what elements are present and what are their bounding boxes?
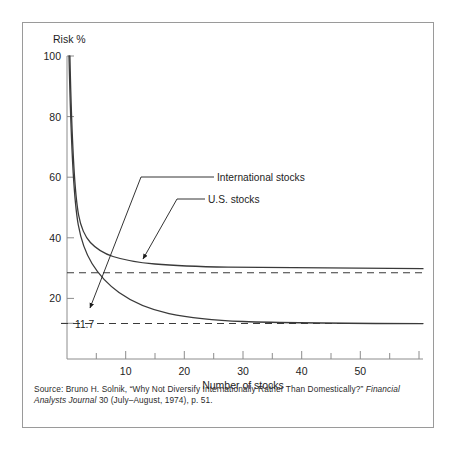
annotation-us-stocks: U.S. stocks (143, 194, 260, 259)
figure-frame: 100 80 60 40 20 Risk % (22, 22, 434, 428)
x-axis-ticks (96, 351, 419, 359)
x-tick-label-40: 40 (296, 365, 308, 377)
figure-container: 100 80 60 40 20 Risk % (0, 0, 458, 454)
x-tick-label-20: 20 (178, 365, 190, 377)
annotation-leader-us (143, 199, 205, 259)
y-axis-tick-labels: 100 80 60 40 20 (43, 50, 61, 304)
y-tick-label-80: 80 (49, 111, 61, 123)
curve-us-stocks (70, 56, 423, 269)
y-tick-label-20: 20 (49, 292, 61, 304)
source-prefix: Source: Bruno H. Solnik, (34, 384, 130, 394)
y-tick-label-60: 60 (49, 171, 61, 183)
x-tick-label-30: 30 (237, 365, 249, 377)
annotation-label-international-stocks: International stocks (217, 172, 305, 183)
source-quote: “Why Not Diversify Internationally Rathe… (130, 384, 366, 394)
risk-diversification-chart: 100 80 60 40 20 Risk % (23, 23, 433, 427)
x-tick-label-10: 10 (120, 365, 132, 377)
curve-international-stocks (69, 56, 423, 324)
axes (67, 56, 423, 359)
reference-line-label-11-7: 11.7 (75, 319, 94, 330)
y-axis-title: Risk % (53, 33, 86, 45)
series-curves (69, 56, 423, 324)
x-axis-tick-labels: 10 20 30 40 50 (120, 365, 366, 377)
annotation-international-stocks: International stocks (90, 172, 305, 308)
annotation-label-us-stocks: U.S. stocks (208, 194, 260, 205)
x-tick-label-50: 50 (354, 365, 366, 377)
y-tick-label-100: 100 (43, 50, 61, 62)
source-citation: Source: Bruno H. Solnik, “Why Not Divers… (34, 384, 426, 407)
source-tail: 30 (July–August, 1974), p. 51. (96, 395, 212, 405)
y-tick-label-40: 40 (49, 232, 61, 244)
